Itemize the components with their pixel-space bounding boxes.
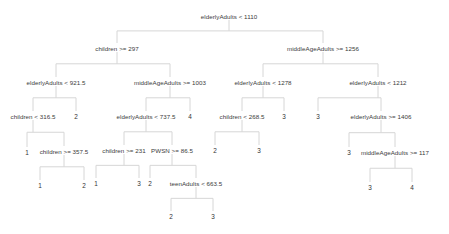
tree-leaf-node: 4 — [187, 113, 193, 120]
tree-leaf-node: 3 — [256, 147, 262, 154]
tree-leaf-node: 2 — [168, 213, 174, 220]
tree-split-node: children < 316.5 — [9, 113, 56, 120]
tree-leaf-node: 3 — [210, 213, 216, 220]
tree-leaf-node: 4 — [409, 184, 415, 191]
tree-split-node: children >= 357.5 — [39, 148, 90, 155]
tree-leaf-node: 2 — [81, 182, 87, 189]
tree-split-node: children >= 231 — [101, 147, 146, 154]
tree-split-node: elderlyAdults < 1212 — [348, 79, 407, 86]
tree-leaf-node: 2 — [73, 113, 79, 120]
tree-leaf-node: 3 — [367, 184, 373, 191]
tree-split-node: PWSN >= 86.5 — [150, 147, 194, 154]
tree-leaf-node: 3 — [281, 113, 287, 120]
tree-split-node: elderlyAdults < 737.5 — [115, 113, 176, 120]
tree-split-node: children >= 297 — [94, 45, 139, 52]
tree-leaf-node: 1 — [93, 180, 99, 187]
tree-split-node: elderlyAdults >= 1406 — [350, 113, 413, 120]
tree-leaf-node: 1 — [24, 149, 30, 156]
tree-split-node: middleAgeAdults >= 1003 — [133, 79, 207, 86]
tree-split-node: elderlyAdults < 1110 — [200, 13, 258, 20]
tree-split-node: teenAdults < 663.5 — [169, 180, 224, 187]
tree-leaf-node: 3 — [136, 180, 142, 187]
tree-leaf-node: 3 — [346, 149, 352, 156]
tree-leaf-node: 2 — [147, 180, 153, 187]
tree-split-node: middleAgeAdults >= 1256 — [286, 45, 360, 52]
tree-leaf-node: 2 — [212, 147, 218, 154]
tree-split-node: middleAgeAdults >= 117 — [360, 149, 430, 156]
tree-split-node: children < 268.5 — [218, 113, 265, 120]
tree-leaf-node: 3 — [315, 113, 321, 120]
tree-leaf-node: 1 — [37, 182, 43, 189]
tree-split-node: elderlyAdults < 921.5 — [25, 79, 86, 86]
tree-split-node: elderlyAdults < 1278 — [233, 79, 292, 86]
